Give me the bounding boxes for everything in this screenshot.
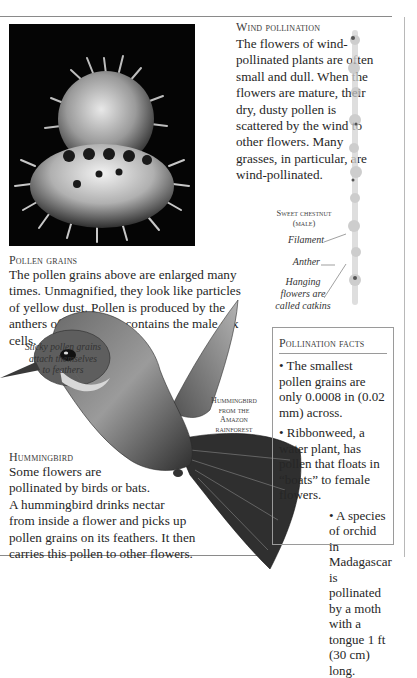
fact-item-3: • A species of orchid in Madagascar is p… (329, 508, 387, 678)
fact-item-1: • The smallest pollen grains are only 0.… (279, 358, 387, 420)
species-line3: Amazon (206, 415, 262, 425)
sweet-chestnut-title: Sweet chestnut (male) (264, 208, 344, 228)
sweet-chestnut-title-line1: Sweet chestnut (264, 208, 344, 218)
hummingbird-line-1: Some flowers are (9, 464, 219, 480)
hummingbird-line-3: A hummingbird drinks nectar (9, 497, 219, 513)
catkins-pointer-line (324, 262, 348, 302)
hummingbird-caption: Hummingbird Some flowers are pollinated … (9, 450, 219, 562)
right-rule (404, 17, 405, 557)
filament-pointer-line (324, 232, 346, 244)
pollen-grains-photo (9, 24, 195, 246)
species-line2: from the (206, 406, 262, 416)
species-line4: rainforest (206, 425, 262, 435)
species-line1: Hummingbird (206, 396, 262, 406)
sticky-line1: Sticky pollen grains (8, 341, 118, 353)
sticky-line2: attach themselves (8, 353, 118, 365)
hummingbird-line-4: from inside a flower and picks up (9, 513, 219, 529)
sticky-line3: to feathers (8, 364, 118, 376)
hummingbird-line-2: pollinated by birds or bats. (9, 480, 219, 496)
filament-label: Filament (264, 234, 324, 246)
hummingbird-line-5: pollen grains on its feathers. It then (9, 530, 219, 546)
pollen-grains-heading: Pollen grains (9, 253, 249, 267)
sticky-pointer-line (74, 372, 82, 380)
top-rule (0, 16, 392, 17)
hummingbird-heading: Hummingbird (9, 450, 219, 464)
sweet-chestnut-title-line2: (male) (264, 218, 344, 228)
hummingbird-species-label: Hummingbird from the Amazon rainforest (206, 396, 262, 434)
anther-label: Anther (270, 256, 320, 268)
hummingbird-line-6: carries this pollen to other flowers. (9, 546, 219, 562)
pollination-facts-box: Pollination facts • The smallest pollen … (272, 327, 394, 545)
fact-item-2: • Ribbonweed, a water plant, has pollen … (279, 425, 387, 503)
sticky-pollen-annotation: Sticky pollen grains attach themselves t… (8, 341, 118, 376)
pollination-facts-heading: Pollination facts (279, 336, 387, 354)
pollen-grain-illustration (9, 24, 195, 246)
sweet-chestnut-catkin-illustration (345, 30, 365, 305)
